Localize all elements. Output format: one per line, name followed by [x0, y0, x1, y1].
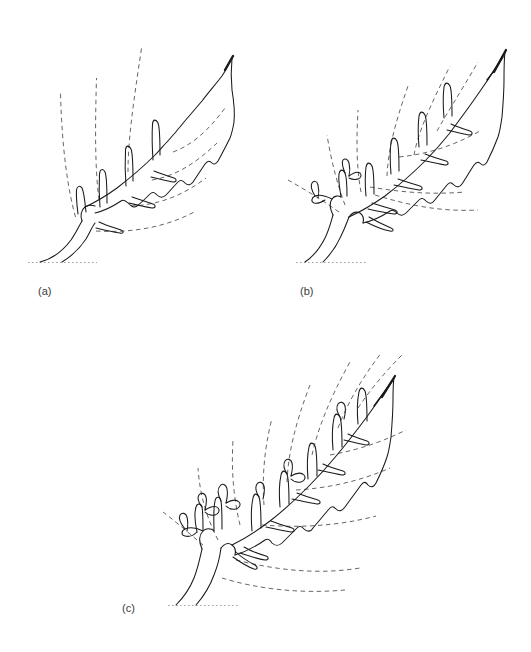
panel-label-b: (b) [300, 285, 313, 297]
panel-label-c: (c) [122, 602, 135, 614]
panel-label-a: (a) [38, 285, 51, 297]
branch-architecture-figure: (a) [0, 0, 531, 652]
